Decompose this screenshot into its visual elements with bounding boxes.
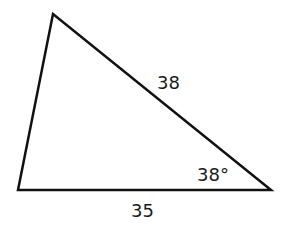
side-label-top-right: 38 xyxy=(157,72,180,93)
triangle-shape xyxy=(18,14,271,190)
side-label-bottom: 35 xyxy=(131,200,154,221)
angle-label-bottom-right: 38° xyxy=(197,164,229,185)
triangle-diagram: 38 38° 35 xyxy=(0,0,293,230)
